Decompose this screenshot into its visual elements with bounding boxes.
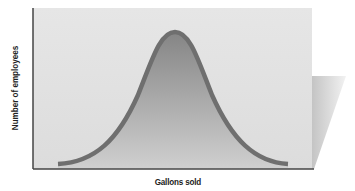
perspective-flap xyxy=(312,76,346,169)
bell-curve-chart xyxy=(0,0,355,191)
y-axis-label: Number of employees xyxy=(9,46,20,130)
x-axis-label: Gallons sold xyxy=(27,176,329,187)
